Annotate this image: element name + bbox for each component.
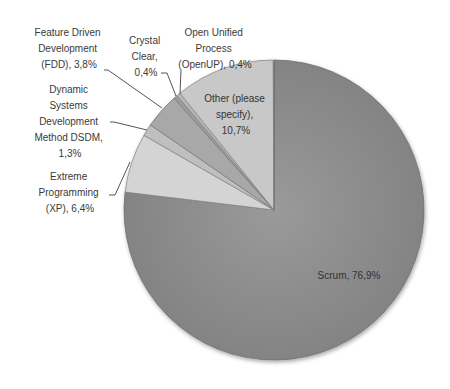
label-scrum: Scrum, 76,9% [318, 270, 381, 281]
pie-chart: Feature Driven Development (FDD), 3,8% C… [0, 0, 450, 389]
leader-openup [180, 70, 181, 94]
leader-dsdm [110, 122, 147, 130]
label-fdd: Feature Driven Development (FDD), 3,8% [35, 27, 104, 70]
label-openup: Open Unified Process (OpenUP), 0,4% [178, 27, 251, 70]
pie [124, 60, 424, 360]
label-dsdm: Dynamic Systems Development Method DSDM,… [34, 84, 105, 159]
label-xp: Extreme Programming (XP), 6,4% [39, 171, 102, 214]
leader-crystal [161, 73, 176, 96]
label-crystal-clear: Crystal Clear, 0,4% [129, 35, 163, 78]
